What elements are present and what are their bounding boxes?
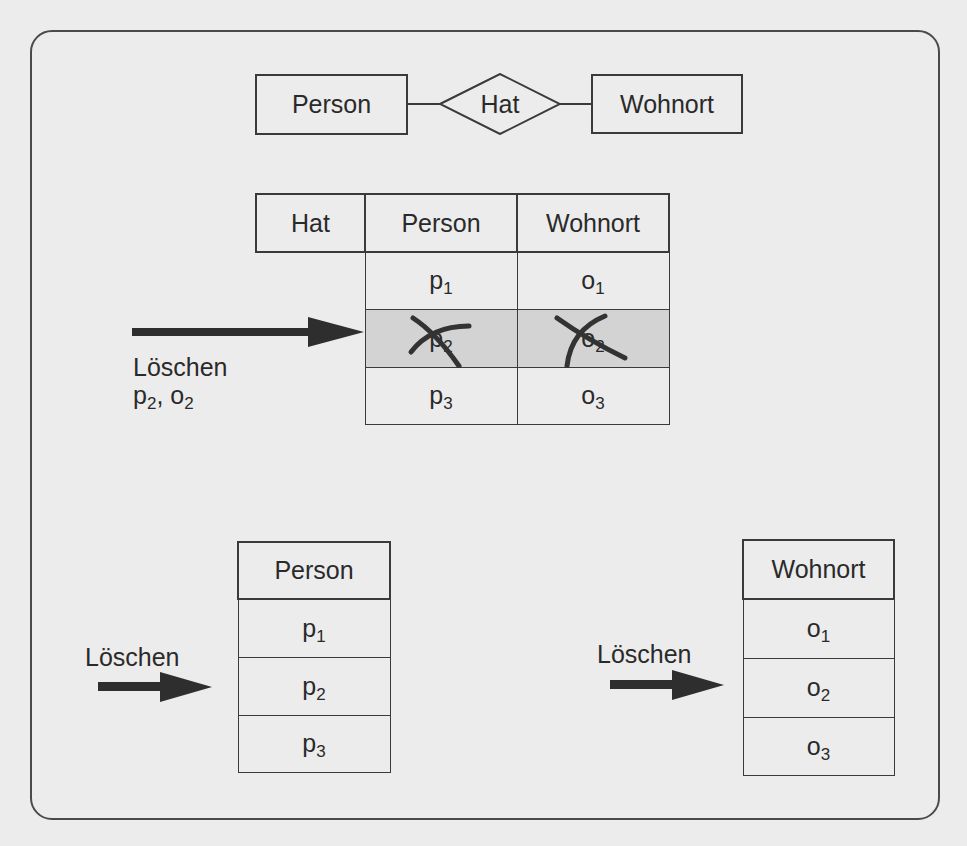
entity-person: Person <box>255 74 408 135</box>
column-header-wohnort: Wohnort <box>743 540 894 599</box>
table-row: p2 <box>238 657 390 715</box>
delete-label-relationship: Löschen p2, o2 <box>133 353 228 409</box>
cell-person: p1 <box>238 599 390 657</box>
connector-hat-wohnort <box>560 103 592 105</box>
entity-wohnort: Wohnort <box>591 74 743 134</box>
cell-person: p3 <box>365 367 517 424</box>
column-header-person: Person <box>365 194 517 252</box>
table-row: p3 o3 <box>256 367 669 424</box>
entity-wohnort-label: Wohnort <box>620 90 714 119</box>
cell-wohnort: o3 <box>743 717 894 775</box>
person-table: Person p1 p2 p3 <box>237 541 391 773</box>
table-header-row: Person <box>238 542 390 599</box>
cell-person: p2 <box>238 657 390 715</box>
table-row: p1 <box>238 599 390 657</box>
column-header-person: Person <box>238 542 390 599</box>
cell-person: p1 <box>365 252 517 309</box>
cell-wohnort: o2 <box>743 658 894 717</box>
delete-targets: p2, o2 <box>133 381 228 409</box>
delete-action-label: Löschen <box>133 353 228 381</box>
table-header-row: Hat Person Wohnort <box>256 194 669 252</box>
relationship-hat-label: Hat <box>439 73 561 135</box>
table-row: o2 <box>743 658 894 717</box>
entity-person-label: Person <box>292 90 371 119</box>
delete-label-wohnort: Löschen <box>597 640 692 668</box>
table-row: o3 <box>743 717 894 775</box>
table-row: p1 o1 <box>256 252 669 309</box>
cell-wohnort: o3 <box>517 367 669 424</box>
wohnort-table: Wohnort o1 o2 o3 <box>742 539 895 776</box>
table-header-row: Wohnort <box>743 540 894 599</box>
cell-person: p3 <box>238 715 390 772</box>
cell-person-deleted: p2 <box>365 309 517 367</box>
cell-wohnort-deleted: o2 <box>517 309 669 367</box>
delete-label-person: Löschen <box>85 643 180 671</box>
table-row: o1 <box>743 599 894 658</box>
arrow-right-icon <box>96 670 216 704</box>
arrow-right-icon <box>608 668 728 702</box>
cell-wohnort: o1 <box>517 252 669 309</box>
column-header-hat: Hat <box>256 194 365 252</box>
relationship-table: Hat Person Wohnort p1 o1 p2 o2 <box>255 193 670 425</box>
column-header-wohnort: Wohnort <box>517 194 669 252</box>
relationship-hat: Hat <box>439 73 561 135</box>
cell-wohnort: o1 <box>743 599 894 658</box>
table-row: p3 <box>238 715 390 772</box>
connector-person-hat <box>407 103 440 105</box>
arrow-right-icon <box>130 315 366 349</box>
